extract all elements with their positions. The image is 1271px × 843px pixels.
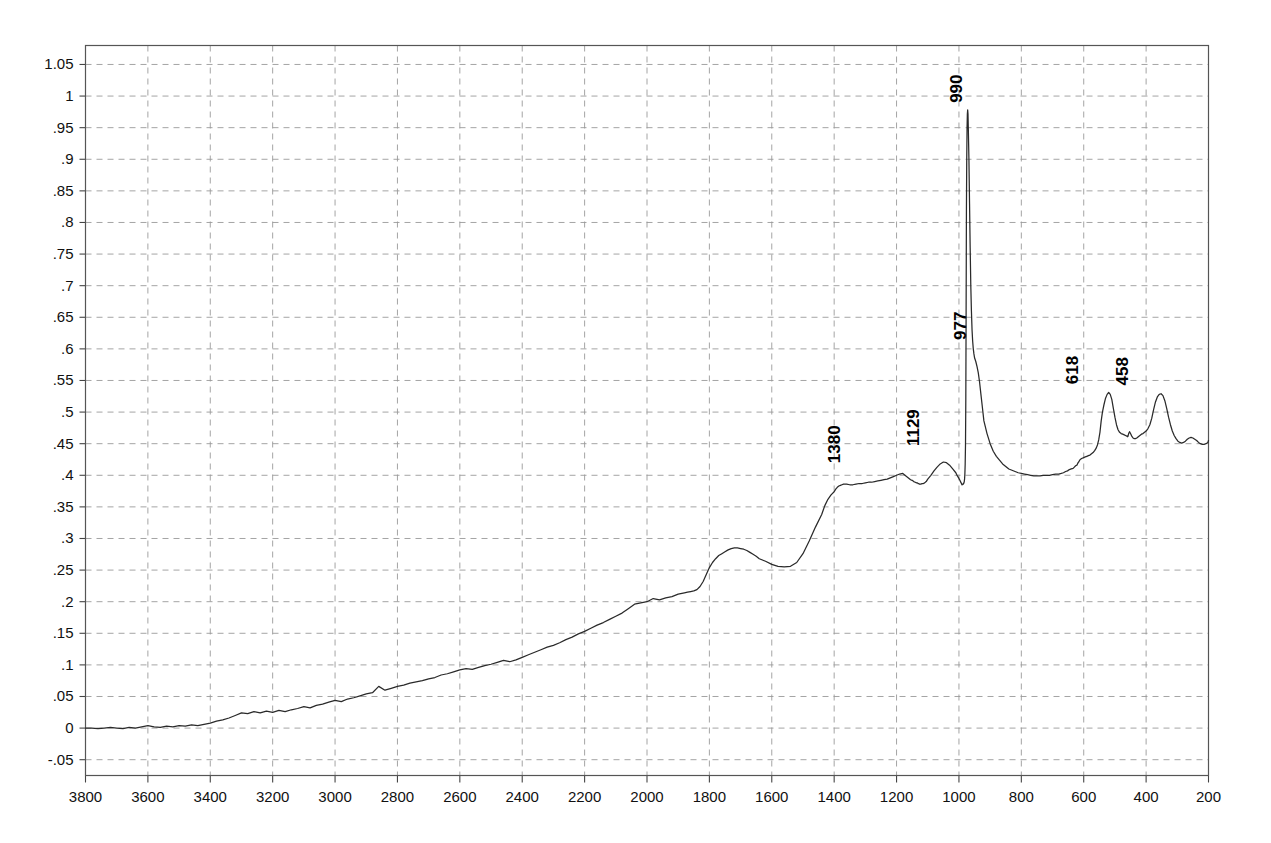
axis-tick-marks [80,64,1209,782]
x-tick-label: 800 [1009,788,1034,805]
y-tick-label: .6 [61,340,74,357]
y-tick-label: .35 [53,498,74,515]
y-tick-label: .7 [61,277,74,294]
peak-label: 977 [951,312,970,340]
peak-annotations: 13801129990977618458 [825,74,1132,463]
x-tick-label: 3400 [194,788,227,805]
peak-label: 1380 [825,425,844,463]
x-tick-label: 1600 [755,788,788,805]
x-tick-label: 1800 [693,788,726,805]
x-tick-label: 1400 [817,788,850,805]
y-tick-label: .75 [53,245,74,262]
y-tick-label: .55 [53,371,74,388]
grid-lines [86,46,1209,776]
x-tick-label: 3000 [318,788,351,805]
x-tick-label: 3600 [131,788,164,805]
y-tick-label: .95 [53,119,74,136]
y-tick-label: 1 [65,87,73,104]
peak-label: 458 [1113,357,1132,385]
x-tick-label: 1000 [942,788,975,805]
y-tick-label: .15 [53,624,74,641]
y-tick-label: .65 [53,308,74,325]
y-tick-label: .4 [61,466,74,483]
x-tick-label: 2600 [443,788,476,805]
y-tick-label: .3 [61,529,74,546]
y-tick-label: .1 [61,656,74,673]
y-tick-label: -.05 [48,751,74,768]
x-tick-label: 2000 [630,788,663,805]
x-tick-label: 2800 [381,788,414,805]
y-tick-label: .9 [61,150,74,167]
y-tick-label: .5 [61,403,74,420]
x-tick-label: 1200 [880,788,913,805]
spectrum-canvas: 1.051.95.9.85.8.75.7.65.6.55.5.45.4.35.3… [0,0,1271,843]
x-tick-label: 3800 [69,788,102,805]
peak-label: 618 [1063,356,1082,384]
x-axis-tick-labels: 3800360034003200300028002600240022002000… [69,788,1221,805]
y-tick-label: .8 [61,213,74,230]
y-tick-label: .05 [53,687,74,704]
spectrum-figure: 1.051.95.9.85.8.75.7.65.6.55.5.45.4.35.3… [0,0,1271,843]
y-tick-label: .85 [53,182,74,199]
x-tick-label: 2400 [506,788,539,805]
x-tick-label: 2200 [568,788,601,805]
y-axis-tick-labels: 1.051.95.9.85.8.75.7.65.6.55.5.45.4.35.3… [44,55,73,767]
y-tick-label: 0 [65,719,73,736]
x-tick-label: 3200 [256,788,289,805]
y-tick-label: .2 [61,593,74,610]
peak-label: 1129 [904,409,923,446]
y-tick-label: .25 [53,561,74,578]
x-tick-label: 400 [1134,788,1159,805]
x-tick-label: 600 [1071,788,1096,805]
peak-label: 990 [947,74,966,102]
y-tick-label: .45 [53,435,74,452]
y-tick-label: 1.05 [44,55,73,72]
x-tick-label: 200 [1196,788,1221,805]
